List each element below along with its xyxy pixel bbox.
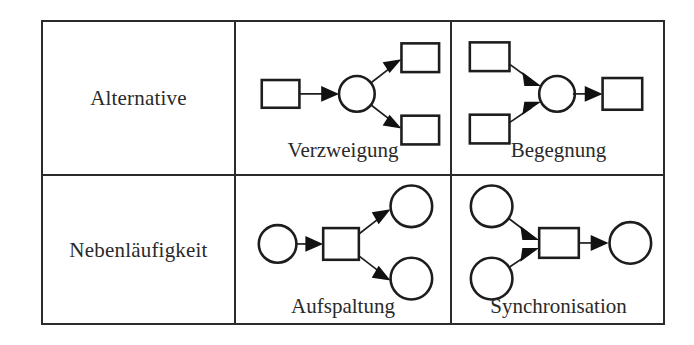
rectangle-node-target (603, 78, 643, 110)
arrow-head-upper-to-circle (522, 72, 541, 86)
arrow-head-circle-to-target (585, 86, 603, 102)
arrow-head-lower-to-rectangle (520, 248, 539, 262)
table-cell-synchronisation: Synchronisation (450, 174, 665, 325)
circle-node-source (259, 225, 297, 263)
petri-net-pattern-table: Alternative Verzweigung (41, 20, 665, 325)
aufspaltung-diagram (236, 184, 450, 292)
arrow-head-source-to-rectangle (305, 236, 323, 252)
arrow-head-source-to-circle (321, 86, 339, 102)
table-cell-aufspaltung: Aufspaltung (234, 174, 450, 325)
table-cell-begegnung: Begegnung (450, 22, 665, 174)
rectangle-node-source (262, 80, 300, 108)
circle-node-target-lower (391, 258, 433, 300)
circle-node-target (610, 222, 652, 264)
arrow-head-rectangle-to-target (591, 235, 609, 251)
rectangle-node-source-upper (470, 42, 510, 71)
diagram-caption-begegnung: Begegnung (511, 140, 607, 161)
circle-node-join (539, 76, 575, 112)
arrow-head-lower-to-circle (522, 102, 541, 115)
circle-node-target-upper (391, 185, 433, 227)
table-row-header-nebenlaeufigkeit: Nebenläufigkeit (43, 174, 234, 325)
rectangle-node-source-lower (470, 115, 510, 144)
verzweigung-diagram (236, 28, 450, 136)
diagram-caption-verzweigung: Verzweigung (288, 140, 399, 161)
table-cell-verzweigung: Verzweigung (234, 22, 450, 174)
table-row-header-alternative: Alternative (43, 22, 234, 174)
rectangle-node-target-lower (401, 116, 439, 145)
diagram-caption-aufspaltung: Aufspaltung (291, 296, 395, 317)
diagram-caption-synchronisation: Synchronisation (490, 296, 627, 317)
arrow-head-upper-to-rectangle (520, 226, 539, 240)
table-grid: Alternative Verzweigung (43, 22, 663, 323)
circle-node-decision (339, 76, 375, 112)
circle-node-source-upper (471, 185, 513, 227)
begegnung-diagram (452, 28, 665, 136)
rectangle-node-join (539, 228, 579, 258)
row-header-label: Nebenläufigkeit (69, 238, 207, 263)
synchronisation-diagram (452, 184, 665, 292)
rectangle-node-split (323, 228, 359, 260)
row-header-label: Alternative (90, 86, 187, 111)
rectangle-node-target-upper (401, 43, 439, 72)
